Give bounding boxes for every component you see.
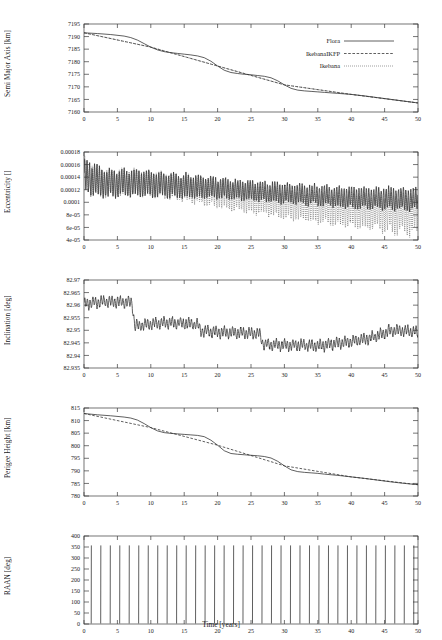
- series-Flora: [91, 545, 418, 623]
- ylabel-semi-major-axis: Semi Major Axis [km]: [0, 0, 16, 128]
- y-tick-label: 7165: [68, 97, 80, 103]
- x-tick-label: 45: [382, 372, 388, 378]
- y-tick-label: 4e-05: [66, 237, 80, 243]
- x-tick-label: 5: [116, 500, 119, 506]
- y-tick-label: 815: [71, 405, 80, 411]
- y-tick-label: 150: [71, 588, 80, 594]
- y-tick-label: 200: [71, 577, 80, 583]
- x-tick-label: 45: [382, 500, 388, 506]
- x-tick-label: 40: [348, 372, 354, 378]
- x-tick-label: 30: [281, 244, 287, 250]
- x-tick-label: 20: [215, 372, 221, 378]
- x-tick-label: 40: [348, 244, 354, 250]
- y-tick-label: 82.95: [67, 327, 81, 333]
- x-tick-label: 40: [348, 500, 354, 506]
- y-tick-label: 0.00018: [61, 149, 81, 155]
- x-tick-label: 5: [116, 244, 119, 250]
- legend-label-IkebanaIKFP: IkebanaIKFP: [306, 50, 341, 57]
- x-tick-label: 10: [148, 244, 154, 250]
- multi-panel-orbit-figure: Semi Major Axis [km] 7160716571707175718…: [0, 0, 442, 640]
- x-tick-label: 5: [116, 372, 119, 378]
- y-tick-label: 805: [71, 430, 80, 436]
- x-tick-label: 35: [315, 244, 321, 250]
- x-tick-label: 15: [181, 116, 187, 122]
- x-tick-label: 0: [83, 500, 86, 506]
- x-tick-label: 35: [315, 500, 321, 506]
- series-IkebanaIKFP: [84, 414, 418, 485]
- x-tick-label: 10: [148, 372, 154, 378]
- y-tick-label: 82.94: [67, 353, 81, 359]
- x-tick-label: 25: [248, 500, 254, 506]
- y-tick-label: 6e-05: [66, 225, 80, 231]
- y-tick-label: 82.945: [64, 340, 81, 346]
- y-tick-label: 0.00014: [61, 174, 81, 180]
- y-tick-label: 82.955: [64, 315, 81, 321]
- y-tick-label: 785: [71, 481, 80, 487]
- y-tick-label: 7195: [68, 21, 80, 27]
- x-tick-label: 35: [315, 372, 321, 378]
- x-tick-label: 0: [83, 244, 86, 250]
- x-tick-label: 15: [181, 500, 187, 506]
- x-tick-label: 20: [215, 244, 221, 250]
- plot-area-0: 7160716571707175718071857190719505101520…: [0, 0, 442, 128]
- x-tick-label: 30: [281, 372, 287, 378]
- y-tick-label: 100: [71, 599, 80, 605]
- x-tick-label: 25: [248, 116, 254, 122]
- plot-area-3: 7807857907958008058108150510152025303540…: [0, 384, 442, 512]
- series-IkebanaIKFP: [84, 33, 418, 103]
- ylabel-eccentricity: Eccentricity []: [0, 128, 16, 256]
- series-Flora: [84, 296, 418, 353]
- x-tick-label: 25: [248, 372, 254, 378]
- y-tick-label: 7170: [68, 84, 80, 90]
- x-tick-label: 0: [83, 372, 86, 378]
- plot-area-2: 82.93582.9482.94582.9582.95582.9682.9658…: [0, 256, 442, 384]
- y-tick-label: 82.965: [64, 290, 81, 296]
- y-tick-label: 7175: [68, 71, 80, 77]
- x-tick-label: 50: [415, 372, 421, 378]
- y-tick-label: 810: [71, 418, 80, 424]
- y-tick-label: 50: [74, 610, 80, 616]
- y-tick-label: 0.0001: [64, 199, 81, 205]
- x-tick-label: 40: [348, 116, 354, 122]
- y-tick-label: 250: [71, 566, 80, 572]
- panel-semi-major-axis: Semi Major Axis [km] 7160716571707175718…: [0, 0, 442, 128]
- plot-area-1: 4e-056e-058e-050.00010.000120.000140.000…: [0, 128, 442, 256]
- y-tick-label: 7190: [68, 34, 80, 40]
- x-tick-label: 20: [215, 500, 221, 506]
- y-tick-label: 790: [71, 468, 80, 474]
- y-tick-label: 82.96: [67, 302, 81, 308]
- ylabel-perigee-height: Perigee Height [km]: [0, 384, 16, 512]
- ylabel-inclination: Inclination [deg]: [0, 256, 16, 384]
- y-tick-label: 350: [71, 544, 80, 550]
- x-tick-label: 30: [281, 116, 287, 122]
- x-tick-label: 50: [415, 116, 421, 122]
- y-tick-label: 800: [71, 443, 80, 449]
- xlabel-time: Time [years]: [0, 620, 442, 629]
- x-tick-label: 25: [248, 244, 254, 250]
- x-tick-label: 5: [116, 116, 119, 122]
- legend: FloraIkebanaIKFPIkebana: [306, 37, 394, 69]
- x-tick-label: 45: [382, 116, 388, 122]
- y-tick-label: 7185: [68, 46, 80, 52]
- legend-label-Ikebana: Ikebana: [320, 62, 340, 69]
- legend-label-Flora: Flora: [327, 37, 341, 44]
- y-tick-label: 780: [71, 493, 80, 499]
- y-tick-label: 7180: [68, 59, 80, 65]
- y-tick-label: 0.00016: [61, 162, 81, 168]
- x-tick-label: 50: [415, 500, 421, 506]
- x-tick-label: 10: [148, 116, 154, 122]
- panel-eccentricity: Eccentricity [] 4e-056e-058e-050.00010.0…: [0, 128, 442, 256]
- x-tick-label: 50: [415, 244, 421, 250]
- x-tick-label: 0: [83, 116, 86, 122]
- x-tick-label: 15: [181, 244, 187, 250]
- y-tick-label: 82.935: [64, 365, 81, 371]
- panel-inclination: Inclination [deg] 82.93582.9482.94582.95…: [0, 256, 442, 384]
- panel-perigee-height: Perigee Height [km] 78078579079580080581…: [0, 384, 442, 512]
- y-tick-label: 0.00012: [61, 187, 81, 193]
- x-tick-label: 45: [382, 244, 388, 250]
- y-tick-label: 8e-05: [66, 212, 80, 218]
- y-tick-label: 400: [71, 533, 80, 539]
- x-tick-label: 35: [315, 116, 321, 122]
- y-tick-label: 300: [71, 555, 80, 561]
- y-tick-label: 82.97: [67, 277, 81, 283]
